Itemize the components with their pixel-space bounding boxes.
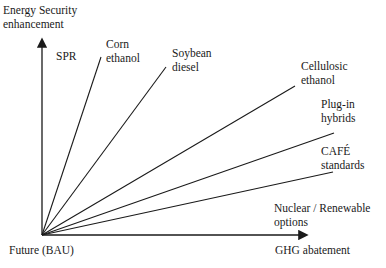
soybean-diesel-line	[42, 67, 166, 235]
label-plugin-line1: Plug-in	[321, 97, 356, 111]
y-axis-label-line2: enhancement	[3, 17, 77, 31]
label-soybean-line2: diesel	[172, 60, 212, 74]
label-spr: SPR	[56, 49, 76, 63]
label-plugin-line2: hybrids	[321, 111, 356, 125]
label-corn-line2: ethanol	[106, 51, 140, 65]
label-cafe-standards: CAFÉ standards	[321, 144, 364, 172]
label-cellulosic-ethanol: Cellulosic ethanol	[301, 59, 348, 87]
x-axis-label: GHG abatement	[275, 243, 350, 257]
x-axis-label-text: GHG abatement	[275, 243, 350, 257]
label-soybean-line1: Soybean	[172, 46, 212, 60]
label-nuclear-renewable: Nuclear / Renewable options	[274, 201, 370, 229]
y-axis-label: Energy Security enhancement	[3, 3, 77, 31]
label-cafe-line2: standards	[321, 158, 364, 172]
label-plug-in-hybrids: Plug-in hybrids	[321, 97, 356, 125]
label-soybean-diesel: Soybean diesel	[172, 46, 212, 74]
y-axis-label-line1: Energy Security	[3, 3, 77, 17]
label-cafe-line1: CAFÉ	[321, 144, 364, 158]
corn-ethanol-line	[42, 57, 101, 235]
label-nuclear-line1: Nuclear / Renewable	[274, 201, 370, 215]
label-spr-text: SPR	[56, 49, 76, 63]
origin-label-text: Future (BAU)	[9, 243, 74, 257]
cellulosic-ethanol-line	[42, 86, 295, 235]
label-cellulosic-line1: Cellulosic	[301, 59, 348, 73]
label-nuclear-line2: options	[274, 215, 370, 229]
origin-label: Future (BAU)	[9, 243, 74, 257]
label-corn-ethanol: Corn ethanol	[106, 37, 140, 65]
label-corn-line1: Corn	[106, 37, 140, 51]
label-cellulosic-line2: ethanol	[301, 73, 348, 87]
